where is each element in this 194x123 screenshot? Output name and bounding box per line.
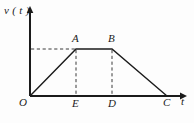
point-label-c: C — [163, 97, 170, 108]
point-label-a: A — [72, 33, 79, 44]
y-axis-label: v ( t ) — [4, 5, 30, 16]
velocity-curve — [30, 49, 167, 96]
origin-label: O — [19, 97, 27, 108]
point-label-e: E — [72, 98, 79, 109]
velocity-time-figure: v ( t ) t O A B E D C — [0, 0, 194, 123]
x-axis-label: t — [181, 96, 184, 107]
point-label-d: D — [108, 98, 116, 109]
point-label-b: B — [108, 33, 115, 44]
